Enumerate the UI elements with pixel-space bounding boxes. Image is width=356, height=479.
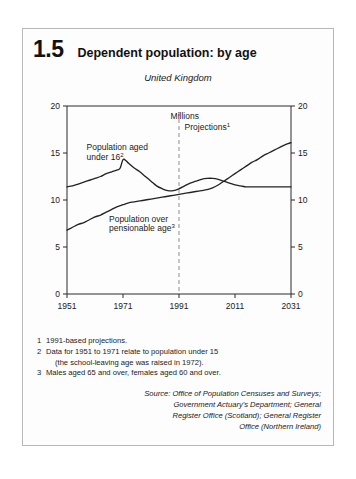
source-line: Register Office (Scotland); General Regi… — [83, 410, 321, 421]
y-tick-label-left: 0 — [55, 289, 60, 299]
x-tick-label: 2011 — [226, 301, 245, 311]
chart-annotation: pensionable age3 — [109, 223, 175, 233]
y-tick-label-right: 5 — [298, 242, 303, 252]
figure-panel: 1.5 Dependent population: by age United … — [22, 28, 334, 446]
footnote-item: 3Males aged 65 and over, females aged 60… — [37, 368, 323, 379]
chart-annotation: Millions — [171, 111, 199, 121]
footnote-text: 1991-based projections. — [46, 336, 323, 347]
footnote-text: Males aged 65 and over, females aged 60 … — [46, 368, 323, 379]
footnotes-list: 11991-based projections.2Data for 1951 t… — [23, 336, 333, 379]
y-tick-label-left: 10 — [51, 195, 61, 205]
footnote-item: 2Data for 1951 to 1971 relate to populat… — [37, 347, 323, 358]
chart-annotation: under 162 — [87, 152, 125, 162]
y-tick-label-right: 0 — [298, 289, 303, 299]
source-line: Office (Northern Ireland) — [83, 421, 321, 432]
figure-header: 1.5 Dependent population: by age — [23, 29, 333, 61]
x-tick-label: 1991 — [170, 301, 189, 311]
region-subtitle: United Kingdom — [23, 72, 333, 83]
footnote-number: 3 — [37, 368, 46, 379]
y-tick-label-left: 20 — [51, 101, 61, 111]
y-tick-label-right: 10 — [298, 195, 308, 205]
y-tick-label-right: 15 — [298, 148, 308, 158]
figure-number: 1.5 — [33, 38, 63, 61]
y-tick-label-left: 5 — [55, 242, 60, 252]
footnote-number: 1 — [37, 336, 46, 347]
chart-plot-area: 005510101515202019511971199120112031Mill… — [23, 86, 333, 332]
footnote-continuation: (the school-leaving age was raised in 19… — [37, 358, 323, 369]
x-tick-label: 1971 — [114, 301, 133, 311]
source-line: Source: Office of Population Censuses an… — [83, 388, 321, 399]
footnote-number: 2 — [37, 347, 46, 358]
figure-title: Dependent population: by age — [77, 47, 256, 60]
footnote-item: 11991-based projections. — [37, 336, 323, 347]
chart-annotation: Projections1 — [185, 122, 231, 132]
y-tick-label-right: 20 — [298, 101, 308, 111]
y-tick-label-left: 15 — [51, 148, 61, 158]
x-tick-label: 2031 — [282, 301, 301, 311]
footnote-text: Data for 1951 to 1971 relate to populati… — [46, 347, 323, 358]
x-tick-label: 1951 — [58, 301, 77, 311]
source-line: Government Actuary's Department; General — [83, 399, 321, 410]
line-chart: 005510101515202019511971199120112031Mill… — [23, 86, 335, 332]
source-attribution: Source: Office of Population Censuses an… — [23, 388, 333, 432]
